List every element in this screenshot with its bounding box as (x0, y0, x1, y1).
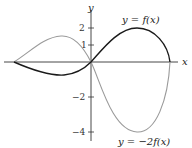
x-axis-label: x (182, 56, 188, 67)
curve-f (14, 28, 170, 75)
neg2f-curve-label: y = −2f(x) (117, 136, 170, 147)
f-curve-label: y = f(x) (121, 14, 160, 25)
y-tick-label-neg2: −2 (72, 92, 85, 102)
function-graph: 2 1 −2 −4 y x y = f(x) y = −2f(x) (0, 0, 192, 148)
y-tick-label-1: 1 (81, 40, 87, 50)
y-tick-label-neg4: −4 (72, 127, 86, 137)
y-axis-label: y (87, 2, 94, 13)
y-tick-label-2: 2 (79, 23, 85, 33)
curve-neg2f (14, 36, 170, 132)
